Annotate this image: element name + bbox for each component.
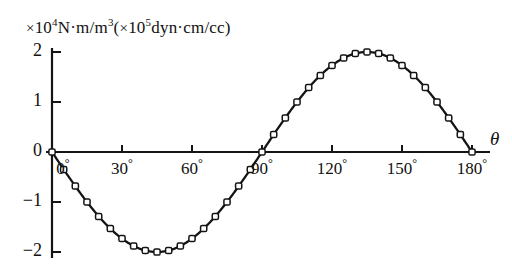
data-point-marker: [446, 115, 452, 121]
data-point-marker: [422, 84, 428, 90]
data-point-marker: [352, 50, 358, 56]
data-point-marker: [119, 235, 125, 241]
data-point-marker: [107, 225, 113, 231]
x-tick-label: 60°: [162, 156, 222, 179]
data-point-marker: [434, 99, 440, 105]
x-tick-label: 0°: [33, 156, 93, 179]
data-point-marker: [224, 199, 230, 205]
data-point-marker: [166, 247, 172, 253]
data-point-marker: [201, 225, 207, 231]
degree-symbol: °: [268, 156, 273, 170]
degree-symbol: °: [412, 156, 417, 170]
data-point-marker: [282, 115, 288, 121]
degree-symbol: °: [342, 156, 347, 170]
x-tick-value: 180: [457, 159, 483, 178]
data-point-marker: [49, 149, 55, 155]
data-point-marker: [96, 213, 102, 219]
data-point-marker: [271, 131, 277, 137]
y-tick-label: −1: [8, 190, 42, 211]
data-point-marker: [376, 50, 382, 56]
data-point-marker: [469, 149, 475, 155]
x-tick-label: 180°: [442, 156, 502, 179]
x-tick-label: 30°: [92, 156, 152, 179]
y-tick-label: −2: [8, 240, 42, 261]
y-tick-label: 1: [8, 90, 42, 111]
plot-area: [0, 0, 512, 268]
data-point-marker: [411, 72, 417, 78]
chart-figure: ×104N·m/m3(×105dyn·cm/cc) 210−1−2 0°30°6…: [0, 0, 512, 268]
degree-symbol: °: [482, 156, 487, 170]
x-tick-value: 90: [251, 159, 268, 178]
x-tick-value: 30: [111, 159, 128, 178]
data-point-marker: [131, 243, 137, 249]
data-point-marker: [399, 62, 405, 68]
x-tick-label: 150°: [372, 156, 432, 179]
x-tick-value: 120: [317, 159, 343, 178]
degree-symbol: °: [65, 156, 70, 170]
data-point-marker: [154, 249, 160, 255]
data-point-marker: [142, 247, 148, 253]
data-point-marker: [387, 55, 393, 61]
degree-symbol: °: [198, 156, 203, 170]
x-tick-value: 0: [56, 159, 65, 178]
data-point-marker: [212, 213, 218, 219]
x-tick-label: 120°: [302, 156, 362, 179]
degree-symbol: °: [128, 156, 133, 170]
data-point-marker: [341, 55, 347, 61]
data-point-marker: [294, 99, 300, 105]
x-tick-label: 90°: [232, 156, 292, 179]
data-point-marker: [177, 243, 183, 249]
data-point-marker: [329, 62, 335, 68]
data-point-marker: [72, 183, 78, 189]
data-point-marker: [306, 84, 312, 90]
y-tick-label: 2: [8, 40, 42, 61]
data-point-marker: [317, 72, 323, 78]
x-tick-value: 60: [181, 159, 198, 178]
x-tick-value: 150: [387, 159, 413, 178]
data-point-marker: [457, 131, 463, 137]
data-point-marker: [84, 199, 90, 205]
data-point-marker: [259, 149, 265, 155]
data-point-marker: [189, 235, 195, 241]
x-axis-symbol: θ: [490, 128, 499, 150]
data-point-marker: [364, 49, 370, 55]
data-point-marker: [236, 183, 242, 189]
